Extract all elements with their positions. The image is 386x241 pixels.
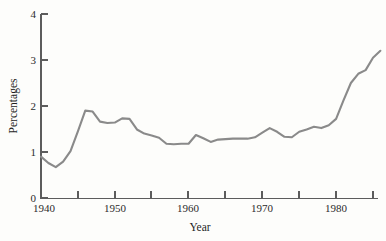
data-series-line [41,51,380,167]
x-tick-label-1980: 1980 [325,202,348,214]
y-tick-label-4: 4 [31,8,37,20]
y-tick-label-1: 1 [31,146,37,158]
x-axis-title: Year [189,221,210,233]
line-chart-canvas: 4 3 2 1 0 1940 1950 1960 1970 1980 Year … [0,0,386,241]
x-tick-label-1950: 1950 [104,202,127,214]
y-axis-title: Percentages [7,78,20,133]
y-tick-label-2: 2 [31,100,37,112]
y-tick-label-3: 3 [31,54,37,66]
x-tick-label-1940: 1940 [33,202,56,214]
x-tick-label-1970: 1970 [251,202,274,214]
x-tick-label-1960: 1960 [177,202,200,214]
chart-figure: 4 3 2 1 0 1940 1950 1960 1970 1980 Year … [0,0,386,241]
